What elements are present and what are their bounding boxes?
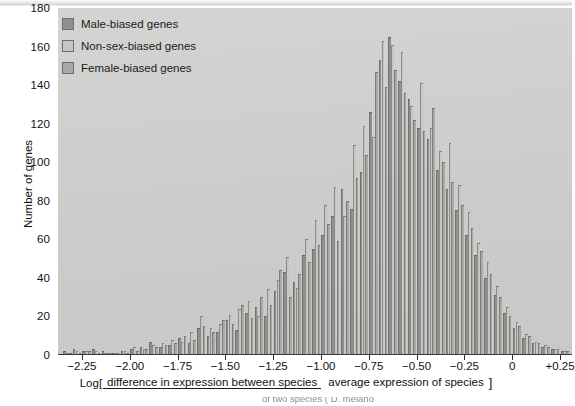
bar: [480, 251, 483, 355]
ratio-fraction: difference in expression between species…: [103, 376, 488, 389]
y-tick-label: 60: [37, 233, 50, 245]
fraction-numerator: difference in expression between species: [103, 376, 321, 389]
bar: [212, 332, 215, 355]
page-edge-band: [0, 0, 572, 6]
cut-off-caption-text: of two species ( D. melano: [262, 397, 374, 404]
bar: [346, 201, 349, 355]
legend-label-male-biased: Male-biased genes: [81, 18, 178, 30]
legend-swatch-non-sex-biased: [62, 40, 74, 52]
log-bracket-close: ]: [488, 375, 493, 390]
bar: [318, 245, 321, 355]
cut-off-caption: of two species ( D. melano: [0, 397, 572, 406]
x-tick-label: −0.50: [402, 360, 431, 372]
y-tick-label: 40: [37, 272, 50, 284]
legend-item-non-sex-biased: Non-sex-biased genes: [62, 36, 196, 55]
bar: [490, 274, 493, 355]
bar: [451, 182, 454, 356]
bar: [471, 228, 474, 355]
y-tick-label: 180: [31, 2, 51, 14]
legend-swatch-male-biased: [62, 18, 74, 30]
x-tick-label: −2.00: [115, 360, 144, 372]
bar: [289, 297, 292, 355]
bar: [365, 155, 368, 355]
x-tick-label: −1.00: [306, 360, 335, 372]
x-tick-label: −0.75: [354, 360, 383, 372]
y-tick-label: 140: [31, 79, 51, 91]
x-tick-label: −1.25: [259, 360, 288, 372]
bar: [337, 241, 340, 355]
bar: [308, 262, 311, 355]
bar: [241, 305, 244, 355]
legend-swatch-female-biased: [62, 62, 74, 74]
bar: [222, 320, 225, 355]
bar: [251, 318, 254, 355]
y-axis-title: Number of genes: [22, 104, 34, 264]
x-tick-label: −1.75: [163, 360, 192, 372]
x-axis-tick-labels: −2.25−2.00−1.75−1.50−1.25−1.00−0.75−0.50…: [0, 360, 572, 376]
bar: [356, 178, 359, 355]
legend-label-non-sex-biased: Non-sex-biased genes: [81, 40, 196, 52]
bar: [518, 326, 521, 355]
bar: [509, 316, 512, 355]
bar: [442, 162, 445, 355]
bar: [375, 72, 378, 355]
y-tick-label: 20: [37, 310, 50, 322]
bar: [193, 340, 196, 355]
bar: [260, 297, 263, 355]
bar: [528, 336, 531, 355]
x-tick-label: −0.25: [450, 360, 479, 372]
x-tick-label: −2.25: [67, 360, 96, 372]
bar: [298, 274, 301, 355]
legend-label-female-biased: Female-biased genes: [81, 62, 192, 74]
bar: [432, 108, 435, 355]
legend-item-male-biased: Male-biased genes: [62, 14, 196, 33]
chart-legend: Male-biased genesNon-sex-biased genesFem…: [62, 14, 196, 80]
bar: [461, 205, 464, 355]
bar: [394, 70, 397, 355]
y-tick-label: 80: [37, 195, 50, 207]
bar: [499, 297, 502, 355]
x-tick-label: 0: [509, 360, 515, 372]
bar: [423, 131, 426, 355]
bar: [270, 305, 273, 355]
bar: [327, 224, 330, 355]
bar: [203, 326, 206, 355]
x-tick-label: −1.50: [211, 360, 240, 372]
legend-item-female-biased: Female-biased genes: [62, 58, 196, 77]
x-tick-label: +0.25: [545, 360, 574, 372]
log-bracket-open: Log[: [80, 377, 103, 389]
bar: [404, 93, 407, 355]
y-tick-label: 160: [31, 41, 51, 53]
fraction-denominator: average expression of species: [324, 376, 487, 388]
bar: [232, 324, 235, 355]
bar: [413, 120, 416, 355]
bar: [279, 270, 282, 355]
bar: [385, 87, 388, 355]
bar: [184, 336, 187, 355]
